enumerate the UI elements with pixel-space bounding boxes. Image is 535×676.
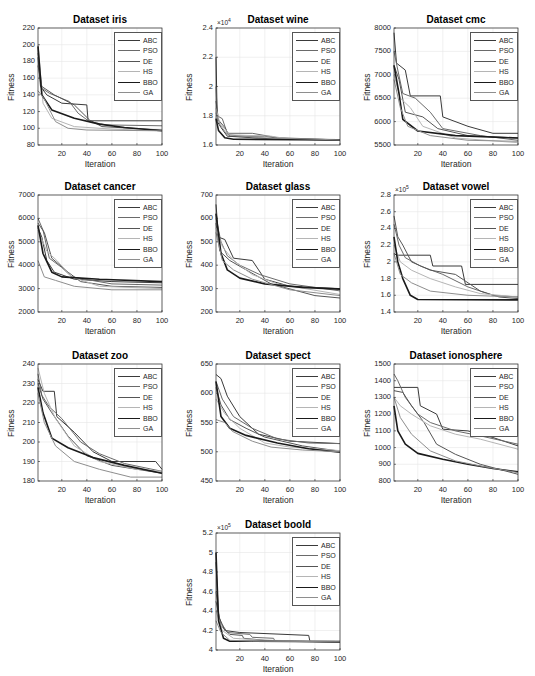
y-axis-label: Fitness [184, 73, 194, 100]
legend-entry: PSO [296, 382, 336, 393]
legend-entry: GA [118, 424, 158, 435]
legend-swatch [474, 228, 496, 229]
y-tick-label: 2.4 [381, 223, 391, 232]
legend-label: DE [321, 563, 331, 570]
y-axis-label: Fitness [362, 409, 372, 436]
y-tick-label: 2.6 [381, 207, 391, 216]
y-tick-label: 1.8 [381, 274, 391, 283]
x-tick-label: 20 [414, 485, 422, 494]
chart-panel: Dataset wine×104204060801001.61.822.22.4… [178, 0, 356, 168]
legend-swatch [118, 238, 140, 239]
x-tick-label: 100 [334, 149, 347, 158]
legend-label: ABC [499, 204, 513, 211]
legend-label: ABC [143, 37, 157, 44]
y-tick-label: 5000 [18, 237, 35, 246]
legend-label: BBO [499, 246, 514, 253]
legend-swatch [474, 71, 496, 72]
legend-swatch [296, 545, 318, 546]
legend-entry: GA [296, 593, 336, 604]
legend-label: DE [321, 58, 331, 65]
legend-label: GA [321, 425, 331, 432]
legend-swatch [296, 428, 318, 429]
y-tick-label: 3000 [18, 284, 35, 293]
y-tick-label: 180 [22, 56, 35, 65]
legend-entry: PSO [118, 213, 158, 224]
x-tick-label: 40 [83, 316, 91, 325]
legend-swatch [474, 50, 496, 51]
legend-swatch [118, 61, 140, 62]
chart-title: Dataset cancer [64, 181, 135, 192]
y-tick-label: 600 [200, 213, 213, 222]
x-axis-label: Iteration [441, 495, 472, 505]
legend-label: DE [499, 394, 509, 401]
legend-entry: HS [296, 572, 336, 583]
chart-title: Dataset cmc [427, 14, 486, 25]
legend-label: GA [143, 256, 153, 263]
legend-entry: HS [296, 234, 336, 245]
y-tick-label: 4000 [18, 260, 35, 269]
x-tick-label: 80 [311, 149, 319, 158]
legend-label: GA [499, 425, 509, 432]
x-tick-label: 80 [489, 316, 497, 325]
legend-entry: HS [296, 403, 336, 414]
x-tick-label: 100 [512, 485, 525, 494]
y-tick-label: 2 [209, 82, 213, 91]
y-tick-label: 4.6 [203, 587, 213, 596]
legend-label: ABC [321, 37, 335, 44]
y-tick-label: 7000 [374, 70, 391, 79]
legend-swatch [118, 386, 140, 387]
x-tick-label: 80 [489, 485, 497, 494]
y-tick-label: 1400 [374, 376, 391, 385]
chart-legend: ABCPSODEHSBBOGA [292, 368, 340, 437]
legend-label: BBO [143, 415, 158, 422]
y-tick-label: 180 [22, 476, 35, 485]
chart-panel: Dataset zoo20406080100180190200210220230… [0, 336, 178, 504]
legend-label: PSO [499, 214, 514, 221]
y-tick-label: 700 [200, 190, 213, 199]
y-tick-label: 1200 [374, 409, 391, 418]
x-tick-label: 40 [439, 485, 447, 494]
x-tick-label: 20 [58, 316, 66, 325]
legend-label: ABC [499, 37, 513, 44]
legend-entry: DE [296, 561, 336, 572]
series-line-ga [216, 113, 340, 140]
x-tick-label: 80 [133, 149, 141, 158]
legend-entry: GA [118, 255, 158, 266]
chart-panel: Dataset vowel×105204060801001.41.61.822.… [356, 167, 534, 335]
legend-swatch [296, 407, 318, 408]
chart-legend: ABCPSODEHSBBOGA [292, 199, 340, 268]
legend-swatch [474, 418, 496, 419]
x-tick-label: 20 [414, 316, 422, 325]
y-tick-label: 220 [22, 398, 35, 407]
y-axis-label: Fitness [184, 240, 194, 267]
legend-label: HS [143, 68, 153, 75]
legend-swatch [118, 259, 140, 260]
x-tick-label: 60 [464, 149, 472, 158]
axis-exponent: ×105 [217, 522, 231, 531]
legend-label: ABC [321, 204, 335, 211]
x-tick-label: 100 [156, 485, 169, 494]
legend-swatch [118, 92, 140, 93]
legend-label: DE [321, 225, 331, 232]
legend-entry: PSO [296, 46, 336, 57]
legend-label: BBO [143, 79, 158, 86]
legend-label: GA [499, 256, 509, 263]
legend-swatch [474, 82, 496, 83]
legend-swatch [118, 428, 140, 429]
y-tick-label: 7500 [374, 46, 391, 55]
legend-entry: BBO [296, 413, 336, 424]
y-tick-label: 80 [27, 140, 35, 149]
legend-swatch [296, 597, 318, 598]
x-tick-label: 60 [464, 485, 472, 494]
axis-exponent: ×104 [217, 17, 231, 26]
legend-swatch [296, 259, 318, 260]
chart-panel: Dataset spect20406080100450500550600650I… [178, 336, 356, 504]
legend-entry: PSO [474, 46, 514, 57]
x-tick-label: 100 [156, 316, 169, 325]
legend-label: HS [499, 404, 509, 411]
x-tick-label: 100 [334, 316, 347, 325]
legend-label: GA [321, 594, 331, 601]
y-tick-label: 7000 [18, 190, 35, 199]
legend-entry: GA [118, 88, 158, 99]
chart-title: Dataset iris [73, 14, 127, 25]
